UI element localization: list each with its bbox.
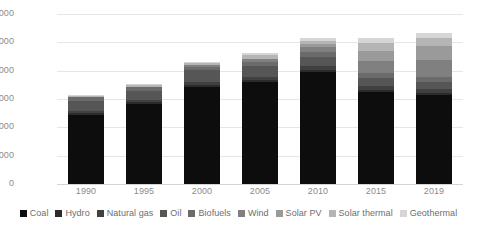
bar-segment: [68, 115, 104, 184]
x-axis-tick-label: 2010: [289, 186, 347, 196]
legend-label: Biofuels: [198, 208, 230, 218]
x-axis-tick-label: 1995: [115, 186, 173, 196]
bar-segment: [300, 57, 336, 67]
x-axis-labels: 1990199520002005201020152019: [57, 186, 463, 196]
legend-label: Geothermal: [410, 208, 458, 218]
bar-slot: [405, 14, 463, 184]
bar-segment: [358, 92, 394, 184]
bar-segment: [416, 60, 452, 77]
x-axis-tick-label: 2000: [173, 186, 231, 196]
legend-item[interactable]: Geothermal: [400, 208, 458, 218]
bar-segment: [358, 78, 394, 86]
bar-segment: [416, 95, 452, 184]
bar-segment: [184, 87, 220, 184]
legend-swatch-icon: [97, 210, 104, 217]
legend-label: Solar PV: [286, 208, 322, 218]
bar-segment: [126, 91, 162, 100]
legend-item[interactable]: Solar PV: [276, 208, 322, 218]
bar-segment: [242, 82, 278, 184]
legend-swatch-icon: [238, 210, 245, 217]
legend-label: Hydro: [65, 208, 89, 218]
bar-segment: [242, 66, 278, 77]
y-axis-tick-label: 250,000: [0, 37, 14, 46]
legend-swatch-icon: [188, 210, 195, 217]
y-axis-tick-label: 150,000: [0, 94, 14, 103]
legend-swatch-icon: [160, 210, 167, 217]
bar-slot: [57, 14, 115, 184]
legend-swatch-icon: [329, 210, 336, 217]
legend-swatch-icon: [20, 210, 27, 217]
x-axis-tick-label: 2005: [231, 186, 289, 196]
bar-slot: [115, 14, 173, 184]
stacked-bar[interactable]: [126, 84, 162, 184]
bar-segment: [416, 38, 452, 46]
bar-slot: [231, 14, 289, 184]
bar-segment: [68, 101, 104, 111]
legend-label: Solar thermal: [339, 208, 393, 218]
bar-segment: [358, 43, 394, 51]
stacked-bar[interactable]: [184, 62, 220, 184]
y-axis-tick-label: 50,000: [0, 151, 14, 160]
stacked-bar[interactable]: [416, 33, 452, 184]
legend-item[interactable]: Hydro: [55, 208, 89, 218]
stacked-bar[interactable]: [300, 38, 336, 184]
legend-label: Oil: [170, 208, 181, 218]
x-axis-tick-label: 1990: [57, 186, 115, 196]
bar-segment: [300, 72, 336, 184]
bar-segment: [416, 82, 452, 89]
legend-swatch-icon: [276, 210, 283, 217]
bar-group: [57, 14, 463, 184]
legend-item[interactable]: Oil: [160, 208, 181, 218]
stacked-bar[interactable]: [242, 53, 278, 184]
x-axis-tick-label: 2019: [405, 186, 463, 196]
x-axis-tick-label: 2015: [347, 186, 405, 196]
legend-item[interactable]: Coal: [20, 208, 49, 218]
y-axis-tick-label: 100,000: [0, 122, 14, 131]
legend-item[interactable]: Biofuels: [188, 208, 230, 218]
stacked-bar-chart: 050,000100,000150,000200,000250,000300,0…: [0, 0, 477, 231]
y-axis-tick-label: 200,000: [0, 66, 14, 75]
bar-segment: [184, 70, 220, 81]
legend-item[interactable]: Wind: [238, 208, 269, 218]
stacked-bar[interactable]: [358, 38, 394, 184]
legend-item[interactable]: Solar thermal: [329, 208, 393, 218]
chart-legend: CoalHydroNatural gasOilBiofuelsWindSolar…: [0, 208, 477, 218]
gridline: [57, 184, 463, 185]
legend-item[interactable]: Natural gas: [97, 208, 154, 218]
bar-slot: [347, 14, 405, 184]
legend-label: Natural gas: [107, 208, 154, 218]
bar-slot: [173, 14, 231, 184]
legend-swatch-icon: [400, 210, 407, 217]
bar-segment: [126, 104, 162, 184]
bar-segment: [416, 46, 452, 60]
stacked-bar[interactable]: [68, 95, 104, 184]
bar-segment: [358, 61, 394, 73]
y-axis-tick-label: 300,000: [0, 9, 14, 18]
legend-label: Wind: [248, 208, 269, 218]
legend-label: Coal: [30, 208, 49, 218]
bar-slot: [289, 14, 347, 184]
legend-swatch-icon: [55, 210, 62, 217]
y-axis-tick-label: 0: [0, 179, 14, 188]
bar-segment: [358, 51, 394, 61]
